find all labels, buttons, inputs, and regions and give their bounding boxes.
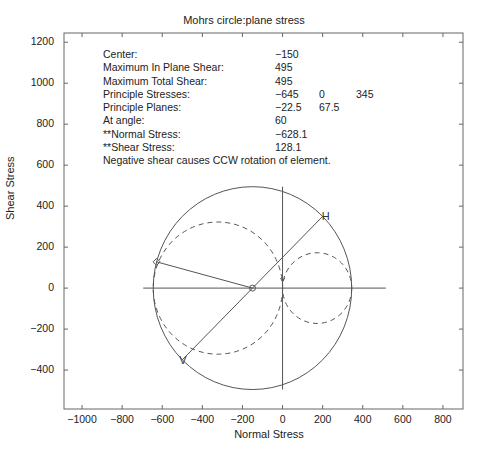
info-value: −22.5 xyxy=(275,101,302,114)
y-tick-label: 1200 xyxy=(8,35,54,47)
y-tick-label: 800 xyxy=(8,117,54,129)
info-value: 495 xyxy=(275,75,293,88)
info-value: −150 xyxy=(275,48,299,61)
x-tick-label: 800 xyxy=(418,413,468,425)
y-tick-label: 0 xyxy=(8,281,54,293)
v-point-label: V xyxy=(179,354,187,366)
info-value: 345 xyxy=(356,88,374,101)
info-label: Maximum In Plane Shear: xyxy=(103,61,224,74)
info-value: −645 xyxy=(275,88,299,101)
mohr-shapes: HV xyxy=(143,187,386,390)
info-label: **Shear Stress: xyxy=(103,141,175,154)
info-value: 60 xyxy=(275,114,287,127)
info-label: Principle Stresses: xyxy=(103,88,190,101)
y-tick-label: −400 xyxy=(8,363,54,375)
info-label: Center: xyxy=(103,48,137,61)
info-label: Negative shear causes CCW rotation of el… xyxy=(103,154,331,167)
info-value: 0 xyxy=(319,88,325,101)
info-label: At angle: xyxy=(103,114,144,127)
info-value: 67.5 xyxy=(319,101,339,114)
info-value: −628.1 xyxy=(275,128,307,141)
plot-line xyxy=(157,262,253,288)
plot-area: HV xyxy=(0,0,488,458)
info-label: Principle Planes: xyxy=(103,101,181,114)
y-tick-label: 200 xyxy=(8,240,54,252)
y-axis-label: Shear Stress xyxy=(4,156,16,220)
info-value: 495 xyxy=(275,61,293,74)
x-axis-label: Normal Stress xyxy=(0,428,488,440)
info-label: **Normal Stress: xyxy=(103,128,181,141)
info-value: 128.1 xyxy=(275,141,301,154)
mohrs-circle-figure: Mohrs circle:plane stress HV −1000−800−6… xyxy=(0,0,488,458)
y-tick-label: 1000 xyxy=(8,76,54,88)
h-point-label: H xyxy=(322,210,330,222)
y-tick-label: −200 xyxy=(8,322,54,334)
info-label: Maximum Total Shear: xyxy=(103,75,207,88)
